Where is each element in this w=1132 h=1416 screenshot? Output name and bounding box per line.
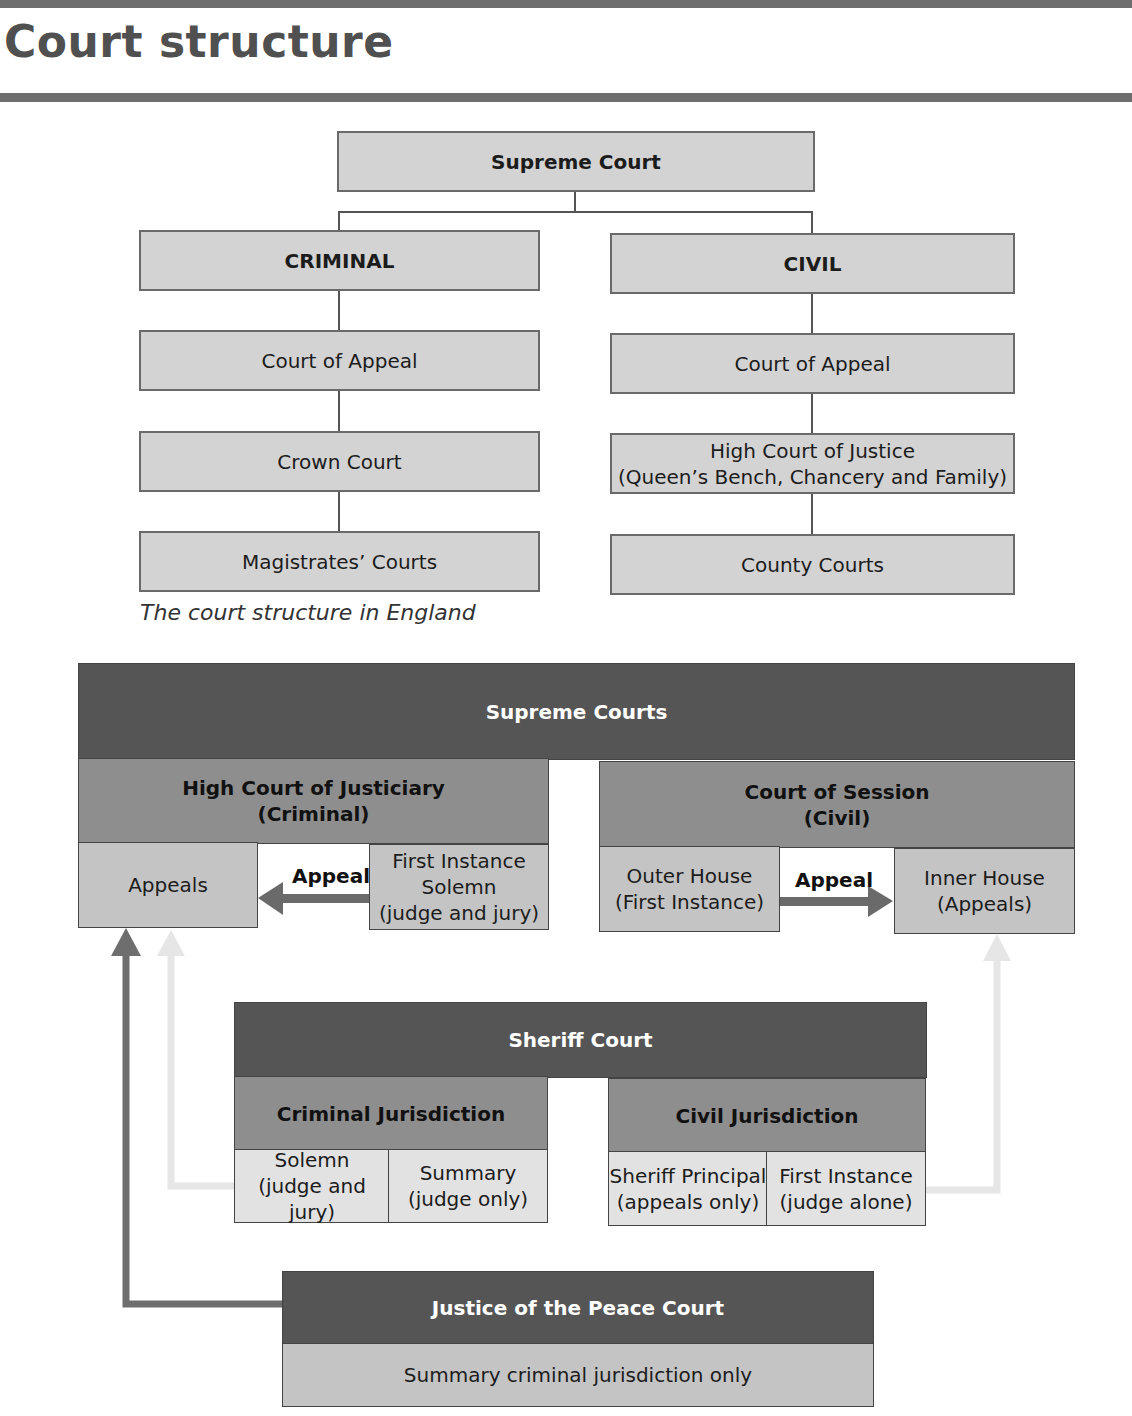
line2: (judge only) — [408, 1186, 528, 1212]
session-appeal-label: Appeal — [795, 868, 873, 892]
header-label: Supreme Courts — [486, 699, 668, 725]
civil-court-of-appeal-box: Court of Appeal — [610, 333, 1015, 394]
title-underline — [0, 93, 1132, 102]
header-label: Criminal Jurisdiction — [277, 1101, 505, 1127]
line1: Solemn — [275, 1147, 350, 1173]
line1: Inner House — [924, 865, 1045, 891]
box-label: County Courts — [741, 552, 884, 578]
line1: Summary — [420, 1160, 517, 1186]
box-label: CIVIL — [784, 251, 842, 277]
sheriff-court-header: Sheriff Court — [234, 1002, 927, 1078]
line2: (First Instance) — [615, 889, 764, 915]
connector — [574, 192, 576, 212]
connector — [338, 290, 340, 330]
line1: First Instance — [392, 848, 526, 874]
connector — [338, 211, 340, 231]
sheriff-principal-box: Sheriff Principal (appeals only) — [608, 1151, 768, 1226]
page-title: Court structure — [4, 16, 394, 67]
england-supreme-court-box: Supreme Court — [337, 131, 815, 192]
header-label-line2: (Criminal) — [258, 801, 370, 827]
justiciary-appeals-box: Appeals — [78, 842, 258, 928]
criminal-court-of-appeal-box: Court of Appeal — [139, 330, 540, 391]
criminal-header-box: CRIMINAL — [139, 230, 540, 291]
top-rule — [0, 0, 1132, 8]
jp-court-body: Summary criminal jurisdiction only — [282, 1343, 874, 1407]
header-label-line1: Court of Session — [744, 779, 929, 805]
outer-house-box: Outer House (First Instance) — [599, 846, 780, 932]
civil-header-box: CIVIL — [610, 233, 1015, 294]
line2: (judge and jury) — [235, 1173, 389, 1225]
box-label: Appeals — [128, 872, 208, 898]
supreme-courts-header: Supreme Courts — [78, 663, 1075, 760]
sheriff-criminal-header: Criminal Jurisdiction — [234, 1076, 548, 1151]
connector — [338, 491, 340, 533]
connector — [338, 390, 340, 432]
line2: (judge alone) — [780, 1189, 913, 1215]
box-label: Court of Appeal — [261, 348, 417, 374]
high-court-of-justice-box: High Court of Justice (Queen’s Bench, Ch… — [610, 433, 1015, 494]
box-label: High Court of Justice (Queen’s Bench, Ch… — [618, 438, 1007, 490]
box-label: Court of Appeal — [734, 351, 890, 377]
pale-arrow-first-instance-to-inner-house — [926, 934, 1011, 1190]
line2: Solemn — [422, 874, 497, 900]
connector — [338, 211, 813, 213]
session-header: Court of Session (Civil) — [599, 761, 1075, 848]
box-label: Supreme Court — [491, 149, 661, 175]
sheriff-solemn-box: Solemn (judge and jury) — [234, 1149, 390, 1223]
justiciary-header: High Court of Justiciary (Criminal) — [78, 758, 549, 844]
header-label-line1: High Court of Justiciary — [182, 775, 445, 801]
line1: Sheriff Principal — [610, 1163, 767, 1189]
header-label-line2: (Civil) — [804, 805, 871, 831]
county-courts-box: County Courts — [610, 534, 1015, 595]
justiciary-appeal-label: Appeal — [292, 864, 370, 888]
magistrates-courts-box: Magistrates’ Courts — [139, 531, 540, 592]
header-label: Sheriff Court — [508, 1027, 652, 1053]
line3: (judge and jury) — [379, 900, 539, 926]
connector — [811, 394, 813, 435]
header-label: Justice of the Peace Court — [432, 1295, 724, 1321]
jp-court-header: Justice of the Peace Court — [282, 1271, 874, 1345]
line1: Outer House — [627, 863, 753, 889]
sheriff-first-instance-box: First Instance (judge alone) — [766, 1151, 926, 1226]
connector — [811, 494, 813, 535]
sheriff-summary-box: Summary (judge only) — [388, 1149, 548, 1223]
line2: (appeals only) — [617, 1189, 759, 1215]
line2: (Appeals) — [937, 891, 1032, 917]
box-label: Magistrates’ Courts — [242, 549, 437, 575]
connector — [811, 211, 813, 234]
connector — [811, 293, 813, 334]
box-label: CRIMINAL — [285, 248, 395, 274]
pale-arrow-solemn-to-appeals — [157, 930, 235, 1186]
line1: First Instance — [779, 1163, 913, 1189]
header-label: Civil Jurisdiction — [676, 1103, 859, 1129]
sheriff-civil-header: Civil Jurisdiction — [608, 1078, 926, 1153]
crown-court-box: Crown Court — [139, 431, 540, 492]
justiciary-first-instance-box: First Instance Solemn (judge and jury) — [369, 844, 549, 930]
box-label: Crown Court — [277, 449, 401, 475]
body-label: Summary criminal jurisdiction only — [404, 1362, 752, 1388]
inner-house-box: Inner House (Appeals) — [894, 848, 1075, 934]
england-caption: The court structure in England — [140, 600, 476, 625]
